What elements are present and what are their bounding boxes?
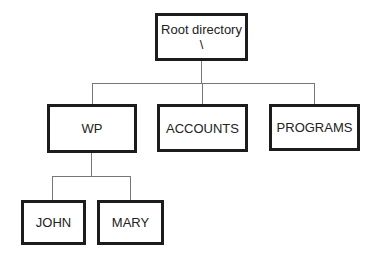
node-john-label: JOHN	[36, 215, 71, 230]
connector-wp-down	[91, 153, 92, 176]
node-accounts-label: ACCOUNTS	[166, 121, 239, 136]
node-root-label: Root directory	[161, 22, 242, 38]
connector-to-mary	[130, 176, 131, 200]
node-john: JOHN	[21, 200, 86, 245]
connector-root-down	[201, 60, 202, 83]
connector-level1-bar	[92, 83, 315, 84]
root-backslash-symbol: \	[200, 38, 204, 52]
connector-to-accounts	[202, 83, 203, 104]
node-mary: MARY	[97, 200, 164, 245]
connector-to-programs	[314, 83, 315, 104]
node-wp: WP	[47, 104, 137, 153]
node-root-directory: Root directory \	[155, 13, 248, 61]
connector-to-john	[52, 176, 53, 200]
node-accounts: ACCOUNTS	[157, 104, 248, 152]
node-programs-label: PROGRAMS	[277, 120, 353, 135]
node-programs: PROGRAMS	[269, 104, 360, 151]
connector-to-wp	[92, 83, 93, 104]
connector-wp-children-bar	[52, 176, 130, 177]
node-wp-label: WP	[82, 121, 103, 136]
node-mary-label: MARY	[112, 215, 149, 230]
